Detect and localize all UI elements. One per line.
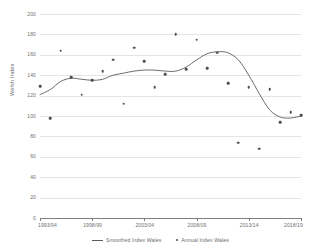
legend-item[interactable]: Annual Index Wales: [176, 237, 229, 243]
y-axis-tick-label: 40: [6, 175, 36, 180]
x-axis-tick-label: 2003/04: [135, 222, 154, 228]
data-point-marker: [300, 114, 303, 117]
data-point-marker: [206, 67, 209, 70]
x-axis-tick-label: 2018/19: [284, 222, 303, 228]
x-axis-tick: [301, 218, 302, 221]
x-axis-line: [40, 218, 301, 219]
y-axis-tick-label: 80: [6, 134, 36, 139]
data-point-marker: [133, 46, 136, 49]
x-axis-tick: [40, 218, 41, 221]
x-axis-tick: [92, 218, 93, 221]
x-axis-tick: [144, 218, 145, 221]
x-axis-tick-label: 2013/14: [240, 222, 259, 228]
legend-item[interactable]: Smoothed Index Wales: [92, 237, 161, 243]
x-axis-tick-label: 1993/94: [38, 222, 57, 228]
y-axis-tick-label: 120: [6, 93, 36, 98]
data-point-marker: [268, 88, 271, 91]
x-axis-tick-label: 1998/99: [83, 222, 102, 228]
y-axis-tick-label: 0: [6, 216, 36, 221]
legend-label: Smoothed Index Wales: [106, 237, 161, 243]
data-point-marker: [185, 68, 188, 71]
data-point-marker: [49, 117, 52, 120]
data-point-marker: [164, 73, 167, 76]
plot-area: [40, 14, 301, 218]
y-axis-title: Welsh Index: [9, 64, 15, 96]
chart-legend: Smoothed Index WalesAnnual Index Wales: [0, 237, 321, 243]
data-point-marker: [70, 76, 73, 79]
x-axis-tick: [197, 218, 198, 221]
data-point-marker: [279, 121, 282, 124]
data-point-marker: [237, 141, 240, 144]
x-axis-tick-label: 2008/09: [188, 222, 207, 228]
data-point-marker: [91, 79, 94, 82]
legend-line-icon: [92, 240, 103, 241]
y-axis-tick-label: 100: [6, 114, 36, 119]
y-axis-tick-label: 160: [6, 52, 36, 57]
data-point-marker: [258, 147, 261, 150]
annual-index-markers: [40, 14, 301, 218]
data-point-marker: [216, 51, 219, 54]
legend-dot-icon: [176, 239, 179, 242]
y-axis-tick-label: 140: [6, 73, 36, 78]
y-axis-tick-label: 180: [6, 32, 36, 37]
data-point-marker: [112, 59, 115, 62]
data-point-marker: [80, 93, 83, 96]
data-point-marker: [122, 102, 125, 105]
data-point-marker: [227, 82, 230, 85]
data-point-marker: [101, 70, 104, 73]
y-axis-tick-label: 20: [6, 195, 36, 200]
data-point-marker: [154, 86, 157, 89]
data-point-marker: [195, 38, 198, 41]
data-point-marker: [143, 60, 146, 63]
data-point-marker: [248, 86, 251, 89]
y-axis-tick-label: 200: [6, 12, 36, 17]
legend-label: Annual Index Wales: [181, 237, 229, 243]
data-point-marker: [289, 111, 292, 114]
data-point-marker: [39, 85, 42, 88]
y-axis-tick-label: 60: [6, 154, 36, 159]
chart-container: Welsh Index 020406080100120140160180200 …: [0, 0, 321, 251]
data-point-marker: [174, 33, 177, 36]
data-point-marker: [60, 49, 63, 52]
x-axis-tick: [249, 218, 250, 221]
